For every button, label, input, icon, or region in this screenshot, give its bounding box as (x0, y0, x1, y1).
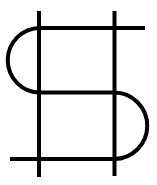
lower-s-curve (10, 93, 147, 160)
dollar-sign-figure (0, 0, 157, 185)
upper-s-curve (8, 28, 145, 93)
dollar-sign-icon (0, 0, 157, 185)
